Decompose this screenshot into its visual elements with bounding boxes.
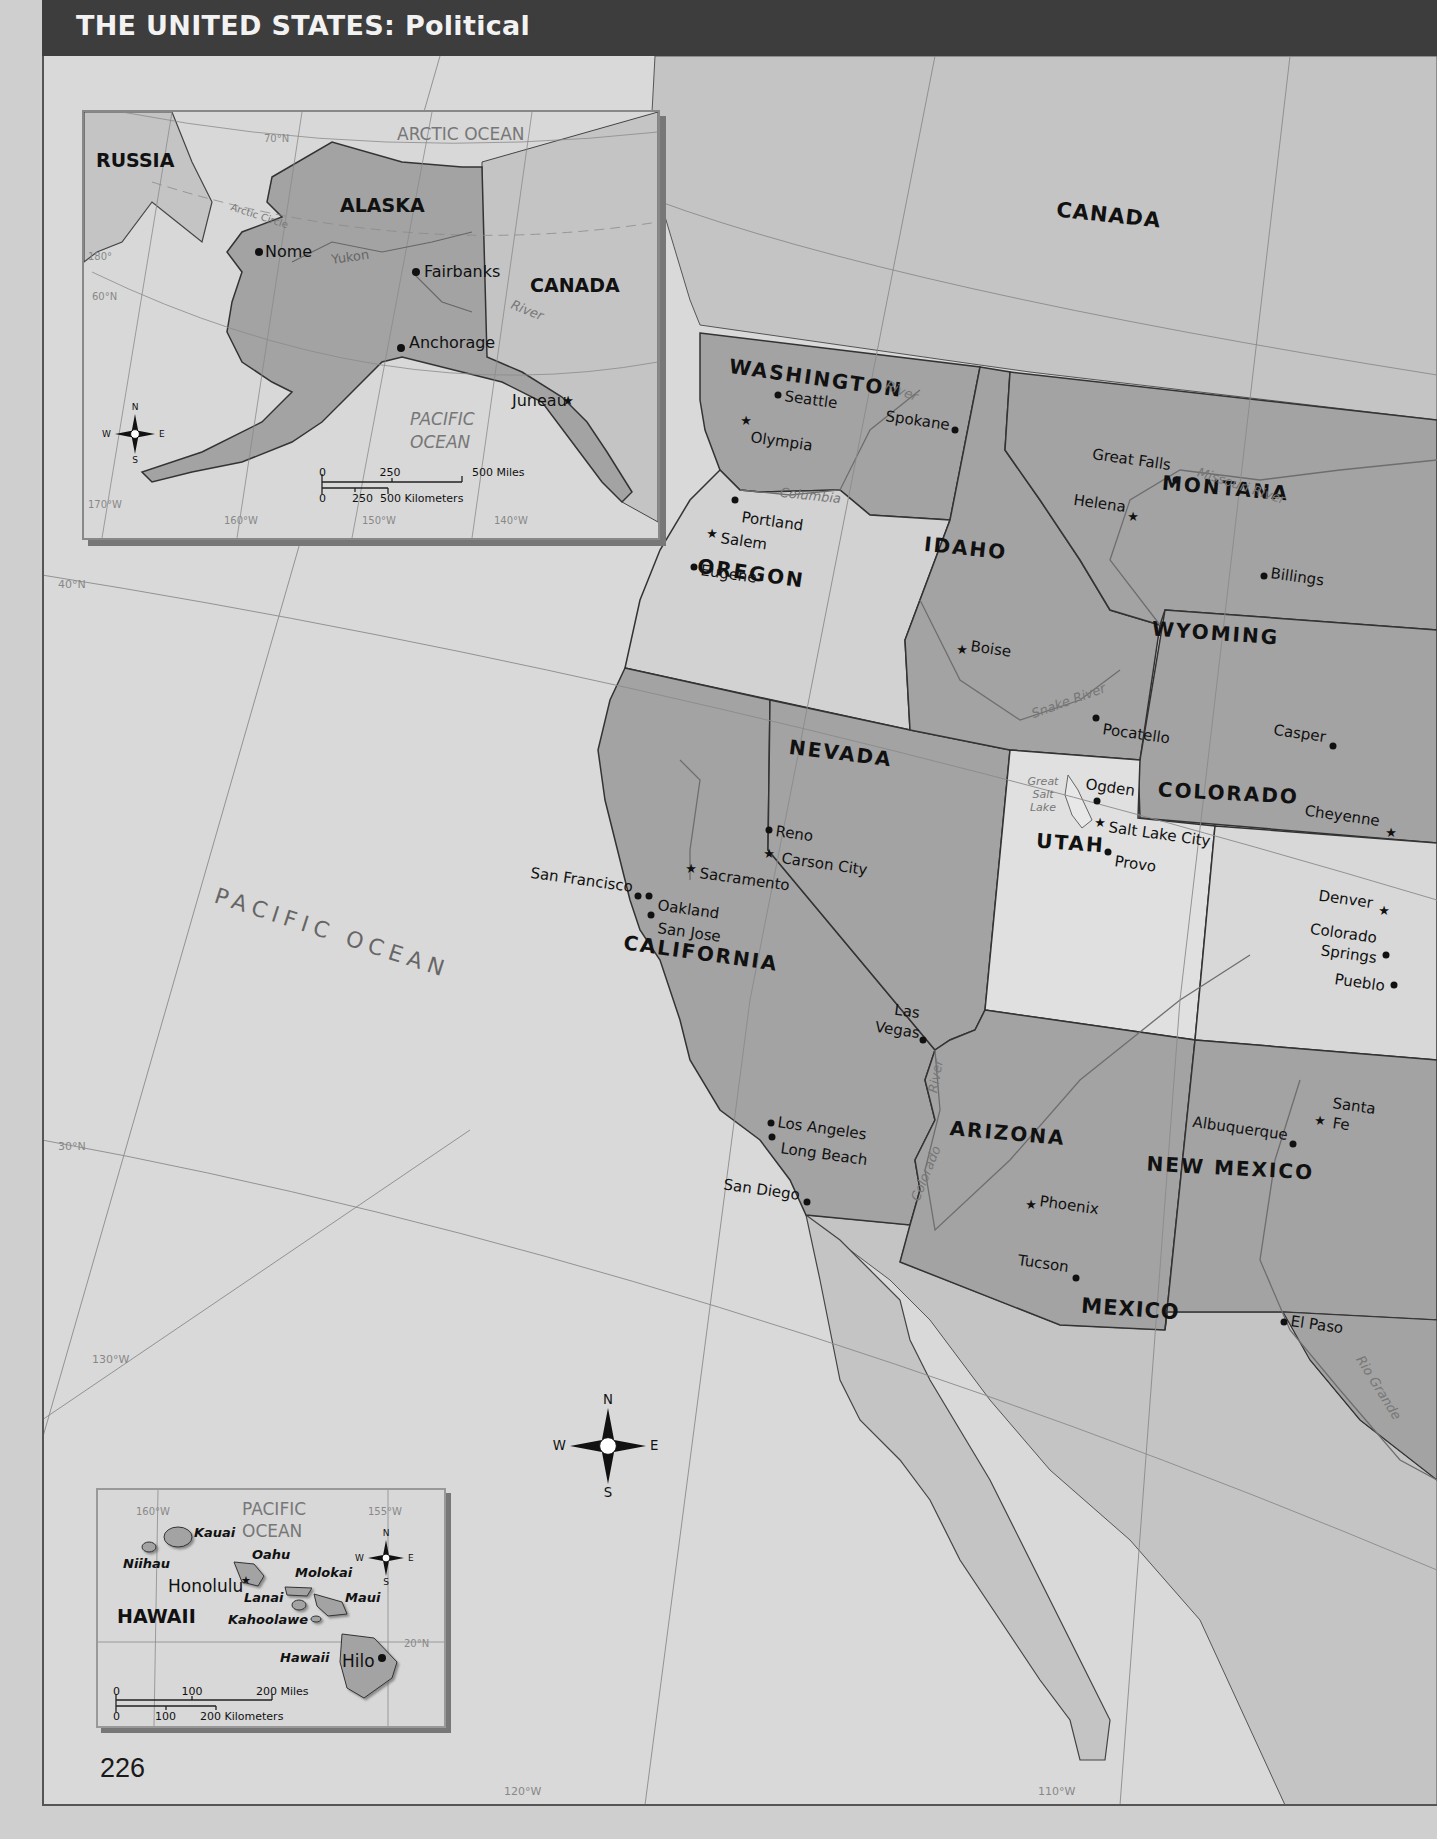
capital-star-icon: ★ — [685, 861, 697, 876]
city-dot-icon — [397, 344, 405, 352]
river-label: River — [925, 1057, 946, 1094]
scale-label: 0 — [113, 1710, 120, 1723]
graticule-label: 160°W — [224, 515, 258, 526]
city-label: Great Falls — [1091, 445, 1172, 474]
city-label: Salem — [719, 529, 768, 553]
state-label: NEW MEXICO — [1146, 1152, 1315, 1185]
state-label: ALASKA — [340, 194, 425, 216]
map-bottom-border — [42, 1804, 1437, 1806]
city-label: Las — [893, 1001, 921, 1022]
city-label: Long Beach — [779, 1139, 868, 1169]
hawaii-inset[interactable]: HAWAIIPACIFICOCEANKauaiNiihauOahuMolokai… — [96, 1488, 446, 1728]
graticule-label: 180° — [88, 251, 112, 262]
city-dot-icon — [769, 1134, 776, 1141]
compass-s: S — [383, 1577, 389, 1587]
city-dot-icon — [1330, 743, 1337, 750]
city-label: San Francisco — [529, 864, 634, 896]
city-dot-icon — [412, 268, 420, 276]
compass-n: N — [383, 1528, 390, 1538]
island-label: Molokai — [295, 1565, 353, 1580]
scale-label: 0 — [113, 1685, 120, 1698]
island-label: Oahu — [252, 1547, 290, 1562]
capital-star-icon: ★ — [956, 642, 968, 657]
city-label: Spokane — [884, 407, 950, 434]
scale-label: 0 — [319, 492, 326, 505]
city-label: Albuquerque — [1192, 1113, 1289, 1144]
city-label: Honolulu — [168, 1576, 243, 1596]
ocean-label: PACIFIC — [410, 409, 475, 429]
lake-label: Great — [1028, 775, 1060, 788]
city-label: Nome — [265, 242, 312, 261]
scale-label: 500 Kilometers — [380, 492, 464, 505]
atlas-page: THE UNITED STATES: Political — [0, 0, 1437, 1839]
graticule-label: 60°N — [92, 291, 117, 302]
graticule-label: 155°W — [368, 1506, 402, 1517]
city-label: Denver — [1317, 887, 1374, 913]
compass-w: W — [102, 429, 111, 439]
city-label: Olympia — [749, 428, 813, 455]
capital-star-icon: ★ — [763, 846, 775, 861]
river-label: Columbia — [779, 485, 842, 506]
map-left-border — [42, 56, 44, 1805]
graticule-label: 40°N — [58, 578, 86, 591]
title-main: THE UNITED STATES: — [76, 10, 395, 41]
compass-e: E — [408, 1553, 414, 1563]
state-label: NEVADA — [788, 735, 894, 772]
capital-star-icon: ★ — [740, 413, 752, 428]
city-label: Casper — [1273, 721, 1328, 746]
city-label: Reno — [774, 822, 814, 845]
city-label: Portland — [740, 508, 804, 534]
country-label: MEXICO — [1081, 1294, 1181, 1325]
city-dot-icon — [1105, 849, 1112, 856]
city-label: Sacramento — [698, 864, 790, 894]
city-label: Juneau — [511, 391, 567, 410]
scale-label: 250 — [380, 466, 401, 479]
scale-label: 200 Kilometers — [200, 1710, 284, 1723]
island-label: Niihau — [123, 1556, 170, 1571]
city-dot-icon — [1173, 477, 1180, 484]
compass-s: S — [604, 1485, 612, 1500]
lake-label: Salt — [1032, 788, 1054, 801]
scale-label: 100 — [182, 1685, 203, 1698]
capital-star-icon: ★ — [1094, 815, 1106, 830]
city-dot-icon — [1281, 1319, 1288, 1326]
page-number: 226 — [100, 1753, 145, 1784]
compass-n: N — [132, 402, 139, 412]
city-label: Provo — [1113, 852, 1157, 876]
scale-label: 200 Miles — [256, 1685, 309, 1698]
city-label: Ogden — [1084, 775, 1136, 800]
ocean-label: ARCTIC OCEAN — [397, 124, 524, 144]
graticule-label: 70°N — [264, 133, 289, 144]
city-dot-icon — [732, 497, 739, 504]
compass-e: E — [159, 429, 165, 439]
city-dot-icon — [920, 1037, 927, 1044]
city-label: Hilo — [342, 1651, 375, 1671]
city-label: Vegas — [874, 1018, 921, 1042]
title-sub: Political — [405, 10, 530, 41]
river-label: Colorado — [908, 1144, 944, 1204]
city-label: Helena — [1072, 491, 1127, 516]
city-dot-icon — [646, 893, 653, 900]
alaska-inset[interactable]: RUSSIAALASKACANADAARCTIC OCEANPACIFICOCE… — [82, 110, 660, 540]
city-label: San Diego — [723, 1175, 801, 1203]
city-label: Colorado — [1309, 920, 1378, 947]
compass-rose-icon — [368, 1540, 404, 1576]
city-label: Fairbanks — [424, 262, 500, 281]
graticule-label: 170°W — [88, 499, 122, 510]
city-dot-icon — [1261, 573, 1268, 580]
scale-label: 250 — [352, 492, 373, 505]
river-label: Rio Grande — [1353, 1353, 1404, 1423]
city-label: Cheyenne — [1304, 802, 1381, 830]
lake-label: Lake — [1030, 801, 1056, 814]
graticule-label: 110°W — [1038, 1785, 1075, 1798]
page-title: THE UNITED STATES: Political — [76, 10, 530, 41]
state-label: UTAH — [1035, 829, 1105, 858]
graticule-label: 150°W — [362, 515, 396, 526]
country-label: CANADA — [1055, 198, 1162, 233]
capital-star-icon: ★ — [1378, 903, 1390, 918]
graticule-label: 130°W — [92, 1353, 129, 1366]
capital-star-icon: ★ — [1314, 1113, 1326, 1128]
river-label: River — [509, 297, 547, 324]
country-label: CANADA — [530, 274, 620, 296]
ocean-label: PACIFIC — [242, 1499, 306, 1519]
